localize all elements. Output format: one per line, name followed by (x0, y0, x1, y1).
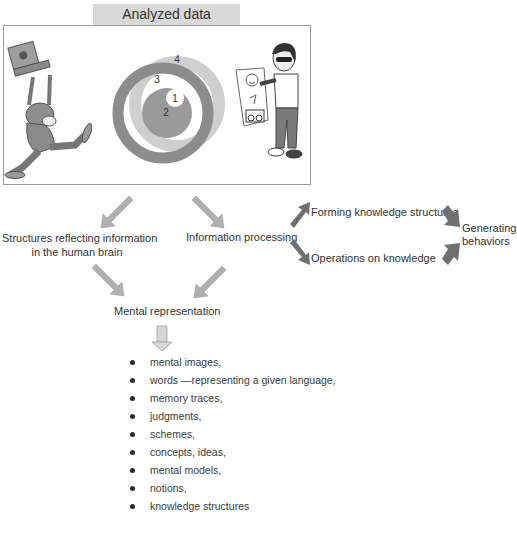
bullet-icon (130, 360, 135, 365)
circle-3-label: 3 (154, 74, 160, 85)
circle-4-label: 4 (174, 54, 180, 65)
down-arrow-icon (151, 326, 173, 352)
running-person-laptop-icon (5, 35, 100, 180)
structures-label: Structures reflecting information in the… (2, 231, 152, 259)
generating-behaviors-label: Generating behaviors (462, 222, 516, 248)
arrow-to-structures-icon (95, 192, 135, 232)
mental-representation-label: Mental representation (114, 305, 220, 317)
bullet-icon (130, 432, 135, 437)
arrow-to-operations-icon (288, 237, 312, 267)
bullet-icon (130, 450, 135, 455)
bullet-icon (130, 414, 135, 419)
analyzed-data-title: Analyzed data (93, 4, 240, 25)
structures-label-line1: Structures reflecting information (2, 231, 152, 245)
arrow-operations-to-generating-icon (440, 241, 462, 265)
person-with-card-icon (232, 40, 312, 165)
arrow-to-forming-icon (288, 200, 312, 230)
bullet-icon (130, 378, 135, 383)
arrow-processing-to-mental-icon (188, 262, 230, 302)
bullet-icon (130, 396, 135, 401)
circle-2-label: 2 (163, 107, 169, 118)
operations-knowledge-label: Operations on knowledge (311, 252, 436, 264)
generating-label-line2: behaviors (462, 235, 516, 248)
arrow-to-processing-icon (190, 192, 230, 232)
information-processing-label: Information processing (186, 231, 297, 243)
structures-label-line2: in the human brain (2, 245, 152, 259)
circle-1-label: 1 (172, 93, 178, 104)
nested-circles-diagram: 1 2 3 4 (105, 48, 230, 168)
forming-knowledge-label: Forming knowledge structures (311, 206, 458, 218)
bullet-icon (130, 504, 135, 509)
bullet-icon (130, 468, 135, 473)
bullet-icon (130, 486, 135, 491)
arrow-forming-to-generating-icon (440, 205, 462, 229)
generating-label-line1: Generating (462, 222, 516, 235)
arrow-structures-to-mental-icon (90, 260, 132, 300)
